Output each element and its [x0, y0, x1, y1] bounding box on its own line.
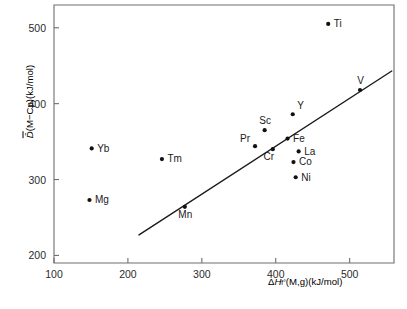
y-tick-label: 200 — [28, 249, 46, 261]
data-point-label: Pr — [240, 133, 251, 144]
plot-frame — [54, 5, 394, 263]
y-axis-title-symbol: D̄ — [24, 131, 35, 138]
data-point-marker — [263, 128, 267, 132]
data-point-marker — [90, 146, 94, 150]
data-point-label: Mn — [178, 209, 192, 220]
data-point-label: Fe — [293, 133, 305, 144]
data-point-label: Co — [299, 156, 312, 167]
data-point-labels: YbMgTmMnPrScCrFeLaCoNiYTiV — [95, 18, 364, 220]
x-tick-label: 100 — [45, 268, 63, 280]
y-axis-ticks — [54, 28, 59, 256]
x-tick-label: 500 — [341, 268, 359, 280]
data-point-marker — [291, 160, 295, 164]
data-point-label: Cr — [264, 151, 275, 162]
scatter-plot-figure: 100200300400500 200300400500 YbMgTmMnPrS… — [0, 0, 407, 309]
data-point-marker — [253, 144, 257, 148]
data-point-label: Tm — [167, 153, 181, 164]
data-point-marker — [297, 149, 301, 153]
data-point-markers — [87, 22, 362, 209]
data-point-marker — [326, 22, 330, 26]
data-point-marker — [285, 136, 289, 140]
data-point-label: Ti — [334, 18, 342, 29]
data-point-marker — [291, 112, 295, 116]
data-point-label: Mg — [95, 194, 109, 205]
x-axis-ticks — [54, 258, 350, 263]
data-point-label: V — [357, 75, 364, 86]
x-axis-title-rest: (M,g)(kJ/mol) — [286, 276, 343, 287]
data-point-marker — [358, 88, 362, 92]
data-point-label: Y — [297, 100, 304, 111]
data-point-marker — [87, 198, 91, 202]
data-point-label: La — [304, 146, 316, 157]
plot-canvas: 100200300400500 200300400500 YbMgTmMnPrS… — [0, 0, 407, 309]
data-point-label: Yb — [97, 143, 110, 154]
y-axis-title: D̄(M−Cp)(kJ/mol) — [24, 27, 35, 177]
x-tick-label: 200 — [119, 268, 137, 280]
x-axis-title: ΔHf°(M,g)(kJ/mol) — [268, 276, 342, 287]
data-point-label: Sc — [259, 115, 271, 126]
data-point-marker — [160, 157, 164, 161]
data-point-marker — [294, 175, 298, 179]
data-point-label: Ni — [301, 172, 310, 183]
y-axis-title-rest: (M−Cp)(kJ/mol) — [24, 65, 35, 131]
x-tick-label: 300 — [193, 268, 211, 280]
